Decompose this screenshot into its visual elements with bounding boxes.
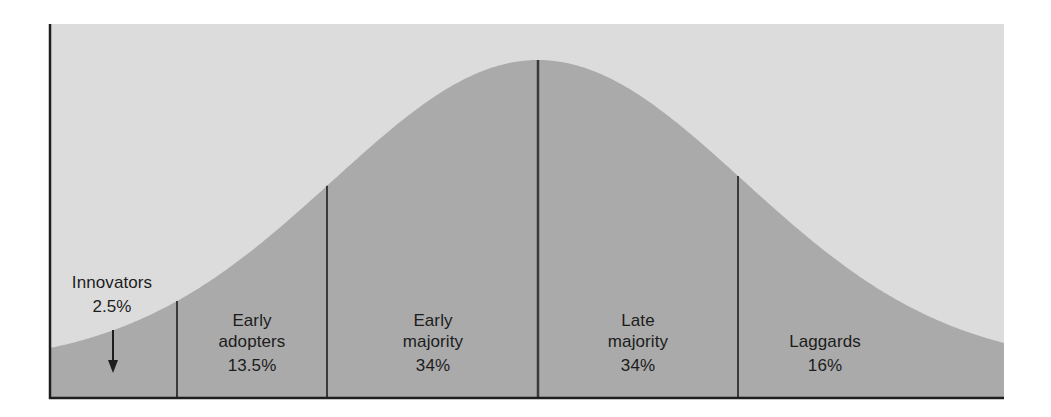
label-innovators-percent: 2.5%: [72, 296, 152, 317]
label-innovators-name: Innovators: [72, 272, 152, 293]
label-early-majority-line2: majority: [403, 331, 463, 352]
label-laggards-percent: 16%: [789, 355, 861, 376]
label-early-adopters-line1: Early: [219, 310, 286, 331]
label-late-majority: Late majority 34%: [608, 310, 668, 376]
label-early-adopters-percent: 13.5%: [219, 355, 286, 376]
label-early-majority-percent: 34%: [403, 355, 463, 376]
label-early-adopters-line2: adopters: [219, 331, 286, 352]
adoption-curve-diagram: [0, 0, 1051, 417]
label-early-majority-line1: Early: [403, 310, 463, 331]
label-late-majority-line1: Late: [608, 310, 668, 331]
label-laggards-name: Laggards: [789, 331, 861, 352]
label-laggards: Laggards 16%: [789, 331, 861, 376]
label-innovators: Innovators 2.5%: [72, 272, 152, 317]
label-early-adopters: Early adopters 13.5%: [219, 310, 286, 376]
label-late-majority-line2: majority: [608, 331, 668, 352]
label-late-majority-percent: 34%: [608, 355, 668, 376]
label-early-majority: Early majority 34%: [403, 310, 463, 376]
